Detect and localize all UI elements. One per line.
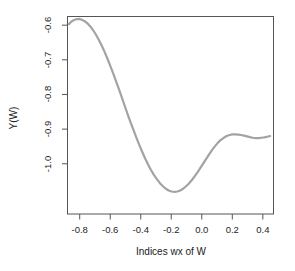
y-tick-label: -0.9 [42,121,53,137]
x-axis-title: Indices wx of W [136,246,206,257]
x-tick-label: 0.4 [256,224,269,235]
y-tick-label: -0.6 [42,17,53,33]
y-tick-label: -0.8 [42,86,53,102]
x-tick-label: -0.6 [102,224,118,235]
y-tick-label: -0.7 [42,52,53,68]
x-tick-label: -0.2 [163,224,179,235]
x-tick-label: -0.8 [72,224,88,235]
data-series-line [69,19,270,192]
y-tick-label: -1.0 [42,156,53,172]
x-tick-label: -0.4 [133,224,149,235]
y-axis-title: Y(W) [8,107,19,130]
chart-container: -0.8-0.6-0.4-0.20.00.20.4 -0.6-0.7-0.8-0… [0,0,295,271]
x-tick-label: 0.2 [226,224,239,235]
x-tick-label: 0.0 [195,224,208,235]
y-axis-ticks [62,25,68,164]
plot-box-border [68,17,274,215]
x-axis-ticks [80,214,263,220]
